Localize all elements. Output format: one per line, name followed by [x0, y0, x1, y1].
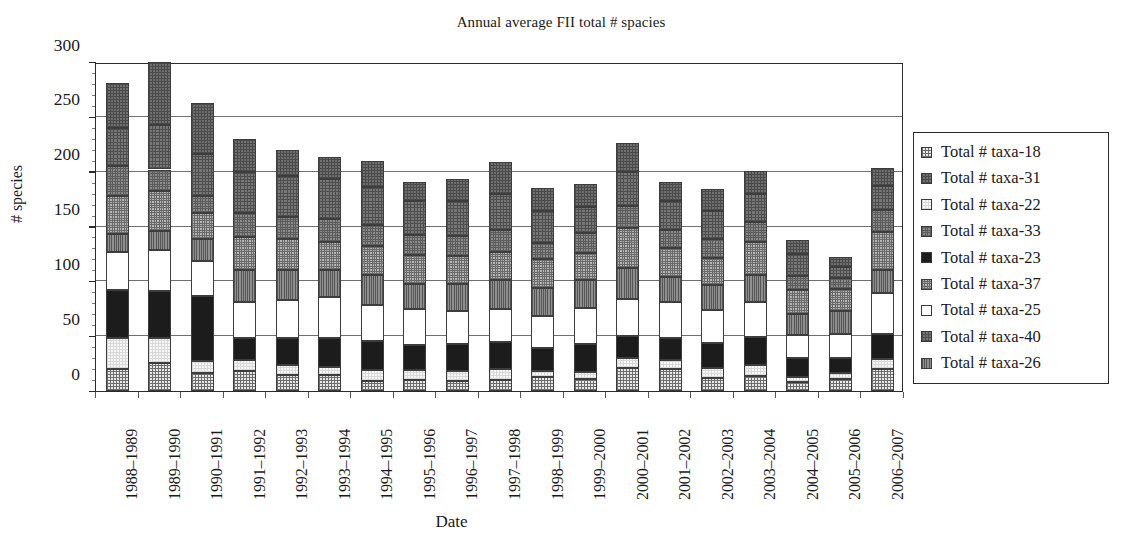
- bar-segment[interactable]: [148, 231, 171, 250]
- bar-group[interactable]: [829, 62, 852, 391]
- bar-segment[interactable]: [744, 222, 767, 242]
- bar-segment[interactable]: [701, 189, 724, 211]
- bar-segment[interactable]: [148, 338, 171, 362]
- bar-segment[interactable]: [233, 302, 256, 338]
- bar-segment[interactable]: [744, 171, 767, 194]
- bar-segment[interactable]: [446, 179, 469, 201]
- bar-segment[interactable]: [191, 196, 214, 214]
- bar-segment[interactable]: [446, 201, 469, 236]
- bar-segment[interactable]: [786, 254, 809, 276]
- bar-segment[interactable]: [403, 380, 426, 391]
- bar-segment[interactable]: [403, 255, 426, 284]
- bar-segment[interactable]: [616, 206, 639, 228]
- bar-segment[interactable]: [574, 308, 597, 344]
- bar-segment[interactable]: [446, 256, 469, 283]
- legend-item[interactable]: Total # taxa-33: [921, 218, 1099, 244]
- bar-segment[interactable]: [233, 237, 256, 270]
- bar-group[interactable]: [191, 62, 214, 391]
- bar-segment[interactable]: [574, 184, 597, 207]
- bar-segment[interactable]: [701, 239, 724, 259]
- bar-segment[interactable]: [616, 336, 639, 358]
- bar-segment[interactable]: [786, 335, 809, 358]
- bar-segment[interactable]: [871, 186, 894, 210]
- bar-segment[interactable]: [659, 302, 682, 338]
- bar-segment[interactable]: [106, 369, 129, 391]
- bar-segment[interactable]: [701, 258, 724, 284]
- bar-segment[interactable]: [871, 168, 894, 186]
- bar-segment[interactable]: [786, 382, 809, 391]
- bar-segment[interactable]: [744, 376, 767, 391]
- bar-segment[interactable]: [659, 360, 682, 369]
- bar-segment[interactable]: [233, 371, 256, 391]
- bar-segment[interactable]: [489, 309, 512, 342]
- bar-segment[interactable]: [659, 201, 682, 230]
- bar-segment[interactable]: [786, 314, 809, 335]
- bar-segment[interactable]: [829, 358, 852, 373]
- bar-segment[interactable]: [786, 358, 809, 377]
- legend-item[interactable]: Total # taxa-18: [921, 139, 1099, 165]
- bar-segment[interactable]: [616, 299, 639, 336]
- legend-item[interactable]: Total # taxa-23: [921, 245, 1099, 271]
- bar-segment[interactable]: [191, 261, 214, 296]
- bar-segment[interactable]: [531, 348, 554, 371]
- bar-segment[interactable]: [744, 337, 767, 364]
- bar-segment[interactable]: [361, 275, 384, 306]
- bar-segment[interactable]: [871, 210, 894, 232]
- bar-segment[interactable]: [489, 380, 512, 391]
- bar-segment[interactable]: [744, 242, 767, 275]
- bar-segment[interactable]: [574, 344, 597, 373]
- bar-segment[interactable]: [829, 311, 852, 334]
- bar-segment[interactable]: [191, 296, 214, 362]
- bar-segment[interactable]: [106, 128, 129, 166]
- bar-segment[interactable]: [148, 170, 171, 192]
- bar-segment[interactable]: [616, 368, 639, 391]
- bar-group[interactable]: [701, 62, 724, 391]
- bar-segment[interactable]: [489, 252, 512, 281]
- bar-segment[interactable]: [318, 270, 341, 296]
- bar-segment[interactable]: [403, 182, 426, 202]
- bar-segment[interactable]: [148, 62, 171, 125]
- bar-segment[interactable]: [276, 217, 299, 239]
- bar-segment[interactable]: [106, 290, 129, 338]
- bar-group[interactable]: [148, 62, 171, 391]
- bar-segment[interactable]: [829, 334, 852, 358]
- bar-segment[interactable]: [531, 377, 554, 391]
- bar-segment[interactable]: [446, 284, 469, 311]
- bar-segment[interactable]: [191, 239, 214, 261]
- bar-segment[interactable]: [829, 278, 852, 289]
- bar-segment[interactable]: [701, 310, 724, 343]
- bar-segment[interactable]: [106, 252, 129, 290]
- bar-group[interactable]: [318, 62, 341, 391]
- bar-group[interactable]: [531, 62, 554, 391]
- bar-segment[interactable]: [403, 345, 426, 370]
- bar-segment[interactable]: [361, 381, 384, 391]
- bar-segment[interactable]: [531, 316, 554, 348]
- bar-group[interactable]: [574, 62, 597, 391]
- bar-segment[interactable]: [659, 248, 682, 277]
- bar-segment[interactable]: [361, 161, 384, 187]
- bar-segment[interactable]: [659, 230, 682, 249]
- bar-segment[interactable]: [701, 343, 724, 368]
- bar-segment[interactable]: [446, 344, 469, 371]
- bar-segment[interactable]: [191, 154, 214, 196]
- bar-segment[interactable]: [276, 300, 299, 338]
- bar-segment[interactable]: [531, 371, 554, 376]
- bar-group[interactable]: [786, 62, 809, 391]
- bar-segment[interactable]: [871, 334, 894, 359]
- bar-segment[interactable]: [531, 243, 554, 259]
- bar-segment[interactable]: [361, 370, 384, 381]
- bar-group[interactable]: [871, 62, 894, 391]
- bar-segment[interactable]: [616, 268, 639, 299]
- bar-segment[interactable]: [233, 270, 256, 302]
- bar-segment[interactable]: [701, 211, 724, 238]
- bar-segment[interactable]: [871, 270, 894, 293]
- legend-item[interactable]: Total # taxa-25: [921, 297, 1099, 323]
- bar-segment[interactable]: [276, 338, 299, 364]
- bar-segment[interactable]: [106, 83, 129, 128]
- bar-segment[interactable]: [489, 342, 512, 369]
- bar-segment[interactable]: [701, 285, 724, 310]
- bar-segment[interactable]: [659, 369, 682, 391]
- bar-segment[interactable]: [446, 371, 469, 381]
- bar-segment[interactable]: [361, 341, 384, 371]
- bar-segment[interactable]: [148, 291, 171, 338]
